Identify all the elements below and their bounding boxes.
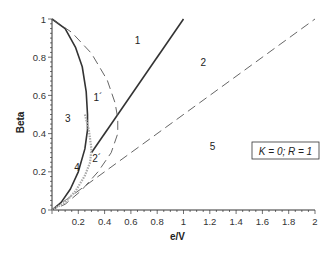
region-label: 2: [200, 57, 206, 68]
x-tick-label: 0.8: [151, 216, 164, 227]
region-label: 4: [74, 162, 80, 173]
region-label: 1´: [94, 92, 103, 103]
series-layer: [52, 19, 315, 210]
dashed-line-beta-equals-half-e-over-v: [52, 19, 315, 210]
x-axis-title: e/V: [170, 231, 185, 242]
y-tick-label: 0.8: [33, 52, 46, 63]
x-tick-label: 0.2: [72, 216, 85, 227]
annotation-box: K = 0; R = 1: [252, 142, 319, 159]
y-axis-title: Beta: [15, 111, 26, 133]
y-tick-label: 0.6: [33, 90, 46, 101]
x-tick-label: 0.6: [124, 216, 137, 227]
annotation-box-text: K = 0; R = 1: [259, 146, 312, 157]
region-label: 5: [210, 141, 216, 152]
x-tick-label: 1.6: [256, 216, 269, 227]
x-tick-label: 0.4: [98, 216, 111, 227]
x-tick-label: 1.8: [282, 216, 295, 227]
x-ticks: 0.20.40.60.811.21.41.61.82: [52, 210, 318, 227]
y-ticks: 00.20.40.60.81: [33, 14, 52, 216]
dotted-gray-curve: [52, 115, 91, 211]
y-tick-label: 0: [41, 205, 46, 216]
x-tick-label: 1: [181, 216, 186, 227]
y-tick-label: 1: [41, 14, 46, 25]
y-tick-label: 0.4: [33, 128, 46, 139]
x-tick-label: 2: [312, 216, 317, 227]
x-tick-label: 1.4: [229, 216, 242, 227]
y-tick-label: 0.2: [33, 166, 46, 177]
region-label: 2´: [92, 153, 101, 164]
region-label: 1: [135, 35, 141, 46]
chart: 0.20.40.60.811.21.41.61.82 00.20.40.60.8…: [0, 0, 334, 253]
x-tick-label: 1.2: [203, 216, 216, 227]
region-label: 3: [65, 113, 71, 124]
